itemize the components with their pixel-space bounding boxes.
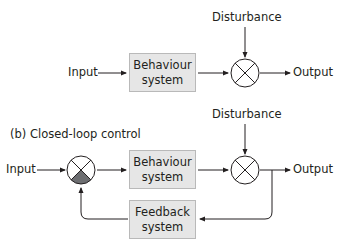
input-label: Input [6,164,36,176]
arrow-feedback-to-comparator [81,188,128,219]
box-line-1: Feedback [135,205,190,219]
box-line-1: Behaviour [133,58,191,72]
comparator-icon [67,156,95,184]
box-line-2: system [142,220,184,234]
behaviour-system-box: Behaviour system [129,53,196,92]
box-line-2: system [142,170,184,184]
input-label: Input [68,67,98,79]
closed-loop-title: (b) Closed-loop control [10,129,141,141]
feedback-system-box: Feedback system [129,200,196,239]
box-line-2: system [142,73,184,87]
output-label: Output [293,164,333,176]
behaviour-system-box: Behaviour system [129,150,196,189]
disturbance-label: Disturbance [212,12,282,24]
arrow-output-to-feedback [200,170,272,219]
disturbance-label: Disturbance [212,109,282,121]
output-label: Output [293,67,333,79]
box-line-1: Behaviour [133,155,191,169]
